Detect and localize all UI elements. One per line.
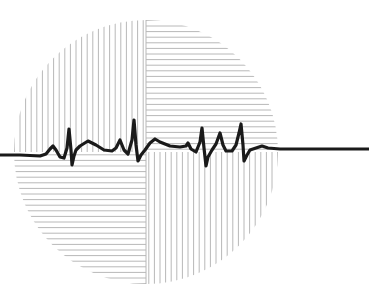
hatched-circle (14, 20, 278, 284)
ecg-illustration (0, 0, 369, 303)
heartbeat-circle-graphic (0, 0, 369, 303)
